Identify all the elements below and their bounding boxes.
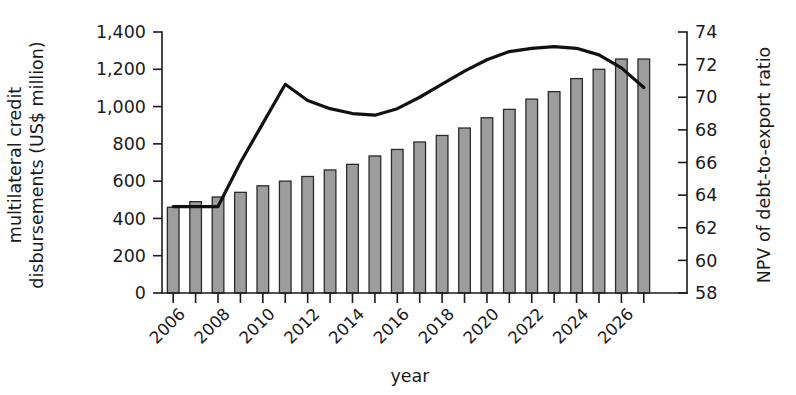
bar-2027: [638, 59, 650, 293]
chart-svg: 02004006008001,0001,2001,400 58606264666…: [0, 0, 796, 395]
right-tick-label: 64: [695, 185, 717, 205]
left-tick-label: 200: [113, 246, 146, 266]
x-tick-label: 2022: [504, 304, 547, 347]
y-axis-right-title: NPV of debt-to-export ratio: [754, 47, 774, 284]
right-tick-label: 72: [695, 55, 717, 75]
bar-2023: [548, 92, 560, 293]
right-axis: 586062646668707274: [678, 22, 717, 303]
x-axis: 2006200820102012201420162018202020222024…: [146, 293, 687, 348]
x-tick-label: 2006: [146, 304, 189, 347]
bar-2009: [235, 192, 247, 293]
bar-2017: [414, 142, 426, 293]
chart-container: 02004006008001,0001,2001,400 58606264666…: [0, 0, 796, 395]
bar-2021: [504, 109, 516, 293]
y-left-title-line: disbursements (US$ million): [27, 41, 47, 288]
left-tick-label: 800: [113, 134, 146, 154]
bar-2006: [167, 207, 179, 293]
left-tick-label: 400: [113, 209, 146, 229]
bar-2008: [212, 197, 224, 293]
bar-2025: [593, 69, 605, 293]
right-tick-label: 62: [695, 218, 717, 238]
bar-2024: [571, 79, 583, 293]
bar-2010: [257, 186, 269, 293]
x-tick-label: 2008: [191, 304, 234, 347]
bar-2014: [347, 164, 359, 293]
bar-2015: [369, 156, 381, 293]
left-tick-label: 600: [113, 171, 146, 191]
x-tick-label: 2020: [460, 304, 503, 347]
bar-2011: [279, 181, 291, 293]
right-tick-label: 68: [695, 120, 717, 140]
right-tick-label: 66: [695, 153, 717, 173]
x-axis-title: year: [390, 366, 430, 386]
x-tick-label: 2016: [370, 304, 413, 347]
x-tick-label: 2012: [280, 304, 323, 347]
bar-2019: [459, 128, 471, 293]
x-tick-label: 2024: [549, 304, 592, 347]
left-tick-label: 0: [135, 283, 146, 303]
bar-2018: [436, 135, 448, 293]
bar-2020: [481, 118, 493, 293]
left-tick-label: 1,400: [96, 22, 146, 42]
right-tick-label: 60: [695, 251, 717, 271]
right-tick-label: 74: [695, 22, 717, 42]
x-tick-label: 2026: [594, 304, 637, 347]
x-tick-label: 2018: [415, 304, 458, 347]
left-axis: 02004006008001,0001,2001,400: [96, 22, 162, 303]
bar-2016: [391, 149, 403, 293]
y-axis-left-title: multilateral creditdisbursements (US$ mi…: [5, 41, 47, 288]
bar-2012: [302, 176, 314, 293]
bars-group: [167, 59, 649, 293]
bar-2026: [616, 59, 628, 293]
right-tick-label: 70: [695, 87, 717, 107]
x-tick-label: 2014: [325, 304, 368, 347]
bar-2022: [526, 99, 538, 293]
x-tick-label: 2010: [236, 304, 279, 347]
bar-2007: [190, 202, 202, 293]
bar-2013: [324, 170, 336, 293]
left-tick-label: 1,000: [96, 97, 146, 117]
right-tick-label: 58: [695, 283, 717, 303]
left-tick-label: 1,200: [96, 59, 146, 79]
y-left-title-line: multilateral credit: [5, 87, 25, 243]
